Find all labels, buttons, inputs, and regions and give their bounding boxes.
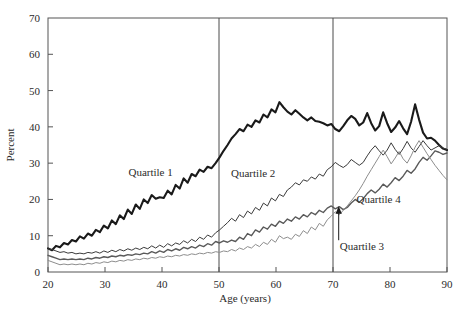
line-chart: 2030405060708090 010203040506070 Quartil… [0,0,459,310]
y-tick-label-10: 10 [29,230,41,242]
y-axis-tick-labels: 010203040506070 [29,12,41,278]
y-tick-label-30: 30 [29,157,41,169]
x-axis-title: Age (years) [219,292,271,305]
annotation-quartile-3: Quartile 3 [340,240,385,252]
x-tick-label-60: 60 [271,278,283,290]
y-tick-label-20: 20 [29,193,41,205]
x-tick-label-40: 40 [157,278,169,290]
series-annotations: Quartile 1Quartile 2Quartile 3Quartile 4 [128,166,401,252]
annotation-quartile-1: Quartile 1 [128,166,172,178]
axis-ticks [48,54,447,272]
y-tick-label-70: 70 [29,12,41,24]
y-tick-label-0: 0 [35,266,41,278]
x-axis-tick-labels: 2030405060708090 [43,278,454,290]
x-tick-label-70: 70 [328,278,340,290]
y-tick-label-60: 60 [29,48,41,60]
x-tick-label-20: 20 [43,278,55,290]
annotation-quartile-4: Quartile 4 [356,193,401,205]
x-tick-label-30: 30 [100,278,112,290]
x-tick-label-90: 90 [442,278,454,290]
annotation-quartile-2: Quartile 2 [231,167,275,179]
chart-figure: 2030405060708090 010203040506070 Quartil… [0,0,459,310]
y-tick-label-40: 40 [29,121,41,133]
series-lines [48,102,447,265]
reference-lines [219,18,333,272]
x-tick-label-80: 80 [385,278,397,290]
x-tick-label-50: 50 [214,278,226,290]
y-axis-title: Percent [4,129,16,162]
y-tick-label-50: 50 [29,85,41,97]
